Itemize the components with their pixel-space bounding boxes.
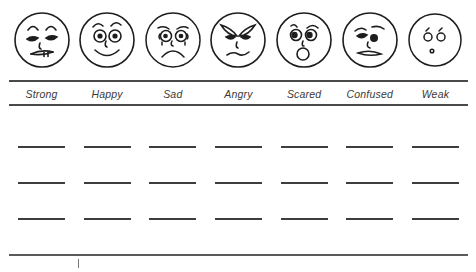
confused-face-icon [341, 9, 399, 71]
weak-face-icon [406, 9, 464, 71]
face-cell-weak [403, 6, 468, 74]
label-scared: Scared [272, 88, 337, 100]
answer-cell-strong-2[interactable] [9, 182, 74, 184]
answer-cell-confused-1[interactable] [337, 146, 402, 148]
write-line[interactable] [412, 218, 459, 220]
answer-cell-happy-2[interactable] [75, 182, 140, 184]
sad-face-icon [144, 9, 202, 71]
answer-cell-scared-3[interactable] [272, 218, 337, 220]
answer-cell-weak-3[interactable] [403, 218, 468, 220]
write-line[interactable] [18, 146, 65, 148]
face-cell-strong [9, 6, 74, 74]
answer-cell-sad-2[interactable] [140, 182, 205, 184]
face-cell-sad [140, 6, 205, 74]
scared-face-icon [275, 9, 333, 71]
write-line[interactable] [149, 146, 196, 148]
angry-face-icon [209, 9, 267, 71]
answer-cell-strong-1[interactable] [9, 146, 74, 148]
write-line[interactable] [84, 218, 131, 220]
answer-grid [9, 118, 468, 248]
footer-tick-mark [78, 259, 79, 268]
answer-cell-sad-1[interactable] [140, 146, 205, 148]
answer-cell-angry-3[interactable] [206, 218, 271, 220]
answer-cell-happy-1[interactable] [75, 146, 140, 148]
label-strong: Strong [9, 88, 74, 100]
label-sad: Sad [140, 88, 205, 100]
write-line[interactable] [84, 182, 131, 184]
write-line[interactable] [412, 146, 459, 148]
answer-cell-scared-1[interactable] [272, 146, 337, 148]
answer-cell-confused-2[interactable] [337, 182, 402, 184]
write-line[interactable] [281, 146, 328, 148]
answer-cell-happy-3[interactable] [75, 218, 140, 220]
answer-cell-angry-1[interactable] [206, 146, 271, 148]
answer-cell-strong-3[interactable] [9, 218, 74, 220]
write-line[interactable] [281, 218, 328, 220]
label-angry: Angry [206, 88, 271, 100]
write-line[interactable] [346, 182, 393, 184]
write-line[interactable] [149, 218, 196, 220]
answer-cell-scared-2[interactable] [272, 182, 337, 184]
answer-cell-confused-3[interactable] [337, 218, 402, 220]
face-cell-happy [75, 6, 140, 74]
answer-row [9, 214, 468, 224]
write-line[interactable] [346, 218, 393, 220]
answer-row [9, 142, 468, 152]
write-line[interactable] [281, 182, 328, 184]
write-line[interactable] [346, 146, 393, 148]
write-line[interactable] [18, 182, 65, 184]
answer-cell-weak-2[interactable] [403, 182, 468, 184]
face-cell-scared [272, 6, 337, 74]
write-line[interactable] [149, 182, 196, 184]
answer-cell-weak-1[interactable] [403, 146, 468, 148]
write-line[interactable] [215, 218, 262, 220]
labels-row: Strong Happy Sad Angry Scared Confused W… [9, 84, 468, 104]
face-cell-confused [337, 6, 402, 74]
label-rule-bottom [9, 104, 468, 106]
label-weak: Weak [403, 88, 468, 100]
answer-row [9, 178, 468, 188]
happy-face-icon [78, 9, 136, 71]
write-line[interactable] [412, 182, 459, 184]
face-cell-angry [206, 6, 271, 74]
label-happy: Happy [75, 88, 140, 100]
write-line[interactable] [215, 182, 262, 184]
write-line[interactable] [84, 146, 131, 148]
footer-rule [9, 254, 468, 256]
write-line[interactable] [215, 146, 262, 148]
write-line[interactable] [18, 218, 65, 220]
strong-face-icon [13, 9, 71, 71]
answer-cell-sad-3[interactable] [140, 218, 205, 220]
label-rule-top [9, 80, 468, 82]
answer-cell-angry-2[interactable] [206, 182, 271, 184]
faces-row [9, 6, 468, 76]
label-confused: Confused [337, 88, 402, 100]
emotion-faces-worksheet: Strong Happy Sad Angry Scared Confused W… [0, 0, 476, 272]
